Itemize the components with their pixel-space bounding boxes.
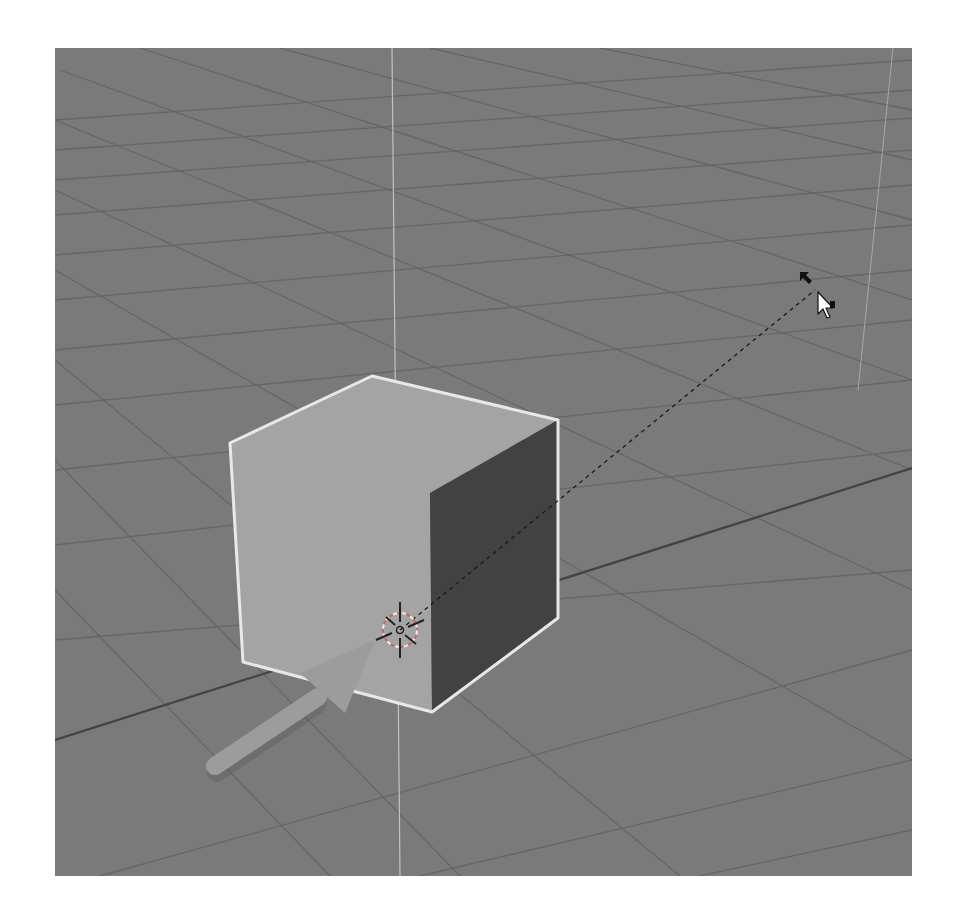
3d-viewport[interactable] (55, 48, 912, 876)
